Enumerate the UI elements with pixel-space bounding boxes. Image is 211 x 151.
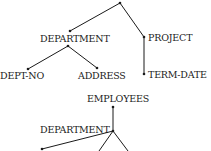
leaf-node xyxy=(41,148,44,151)
label-dept-no: DEPT-NO xyxy=(0,70,44,81)
edge-department-deptno xyxy=(28,46,68,69)
label-term-date: TERM-DATE xyxy=(148,69,207,80)
label-department-2: DEPARTMENT xyxy=(40,124,110,135)
department2-node xyxy=(112,130,115,133)
label-address: ADDRESS xyxy=(77,70,126,81)
root-node xyxy=(119,2,122,5)
tree-diagram: DEPARTMENT PROJECT DEPT-NO ADDRESS TERM-… xyxy=(0,0,211,151)
department-branch-node xyxy=(67,45,70,48)
edge-department-address xyxy=(68,46,97,68)
edge-department-right xyxy=(113,131,128,151)
address-node xyxy=(96,67,99,70)
project-node xyxy=(143,36,146,39)
department-node xyxy=(69,30,72,33)
label-employees: EMPLOYEES xyxy=(87,93,149,104)
label-project: PROJECT xyxy=(148,32,193,43)
edge-root-department xyxy=(70,3,120,31)
term-date-node xyxy=(143,73,146,76)
label-department: DEPARTMENT xyxy=(40,33,110,44)
edge-root-project xyxy=(120,3,144,37)
employees-node xyxy=(112,106,115,109)
